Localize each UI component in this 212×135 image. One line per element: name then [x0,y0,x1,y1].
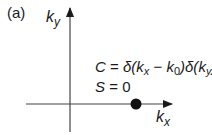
ky-axis-label: ky [46,8,61,29]
panel-label: (a) [7,4,25,21]
k0-point [131,99,142,110]
kx-axis-label: kx [156,108,171,129]
k-space-diagram: (a) ky kx C = δ(kx − k0)δ(ky) S = 0 [0,0,212,135]
s-equation: S = 0 [95,78,130,95]
c-equation: C = δ(kx − k0)δ(ky) [95,58,212,77]
